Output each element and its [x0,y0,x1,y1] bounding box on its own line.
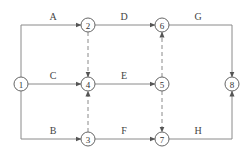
node-label: 6 [160,21,165,31]
activity-b: B [21,91,81,139]
node-label: 2 [86,21,91,31]
node-label: 1 [19,80,24,90]
node-2: 2 [81,18,95,32]
node-7: 7 [155,132,169,146]
activity-a: A [21,11,81,77]
arrow-g [169,25,232,77]
activity-f: F [95,125,155,139]
node-3: 3 [81,132,95,146]
node-label: 3 [86,135,91,145]
node-4: 4 [81,77,95,91]
network-diagram: A C B D E F G H 1 [0,0,249,155]
node-8: 8 [225,77,239,91]
activity-label-f: F [121,125,127,136]
activity-label-e: E [121,70,127,81]
activity-label-b: B [50,125,57,136]
node-label: 8 [230,80,235,90]
activity-label-g: G [194,11,201,22]
activity-label-h: H [194,125,201,136]
activity-label-c: C [50,70,57,81]
node-label: 5 [160,80,165,90]
node-1: 1 [14,77,28,91]
activity-label-a: A [49,11,57,22]
activity-h: H [169,91,232,139]
node-5: 5 [155,77,169,91]
activity-label-d: D [120,11,127,22]
node-label: 4 [86,80,91,90]
node-6: 6 [155,18,169,32]
activity-g: G [169,11,232,77]
activity-e: E [95,70,155,84]
activity-d: D [95,11,155,25]
activity-c: C [28,70,81,84]
node-label: 7 [160,135,165,145]
